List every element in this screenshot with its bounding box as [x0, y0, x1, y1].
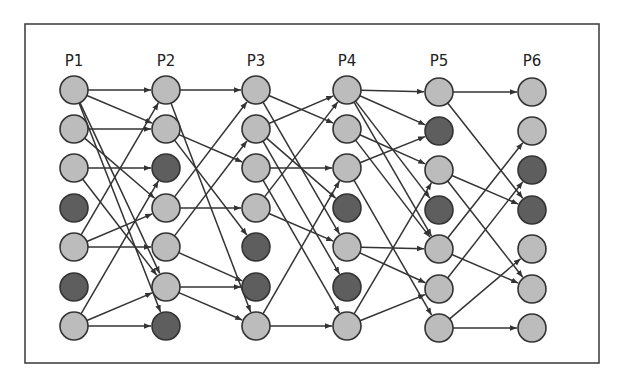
node-p3-7-active [242, 312, 270, 340]
edge-arrow [448, 143, 523, 238]
node-p6-5-active [518, 235, 546, 263]
node-p3-6-inactive [242, 273, 270, 301]
edge-arrow [361, 90, 424, 91]
column-label-p4: P4 [338, 52, 357, 70]
node-p2-6-active [152, 273, 180, 301]
edge-arrow [81, 103, 158, 235]
node-p1-4-inactive [60, 194, 88, 222]
edge-arrow [174, 102, 246, 197]
node-p2-2-active [152, 115, 180, 143]
edge-arrow [450, 259, 521, 319]
node-p3-3-active [242, 154, 270, 182]
node-p3-5-inactive [242, 233, 270, 261]
node-p5-6-active [425, 275, 453, 303]
node-p4-4-inactive [333, 194, 361, 222]
column-labels: P1P2P3P4P5P6 [65, 52, 542, 70]
node-p4-3-active [333, 154, 361, 182]
node-p3-1-active [242, 76, 270, 104]
node-p6-2-active [518, 117, 546, 145]
node-p3-4-active [242, 194, 270, 222]
node-p1-7-active [60, 312, 88, 340]
edges-layer [79, 90, 523, 328]
node-p1-6-inactive [60, 273, 88, 301]
column-label-p2: P2 [157, 52, 176, 70]
edge-arrow [360, 295, 425, 321]
node-p2-4-active [152, 194, 180, 222]
edge-arrow [356, 140, 430, 237]
node-p5-5-active [425, 235, 453, 263]
edge-arrow [360, 253, 426, 283]
edge-arrow [179, 293, 242, 320]
nodes-layer [60, 76, 546, 342]
node-p1-5-active [60, 233, 88, 261]
edge-arrow [265, 102, 338, 197]
node-p4-7-active [333, 312, 361, 340]
node-p6-4-inactive [518, 196, 546, 224]
node-p4-6-inactive [333, 273, 361, 301]
node-p2-7-inactive [152, 312, 180, 340]
edge-arrow [269, 214, 333, 242]
edge-arrow [263, 141, 340, 274]
column-label-p5: P5 [430, 52, 449, 70]
node-p2-1-active [152, 76, 180, 104]
node-p4-5-active [333, 233, 361, 261]
node-p6-7-active [518, 314, 546, 342]
node-p1-3-active [60, 154, 88, 182]
node-p5-2-inactive [425, 117, 453, 145]
node-p6-1-active [518, 78, 546, 106]
network-diagram: P1P2P3P4P5P6 [0, 0, 618, 381]
node-p5-3-active [425, 156, 453, 184]
node-p2-3-inactive [152, 154, 180, 182]
node-p3-2-active [242, 115, 270, 143]
column-label-p6: P6 [523, 52, 542, 70]
edge-arrow [87, 293, 152, 321]
node-p5-1-active [425, 78, 453, 106]
node-p4-1-active [333, 76, 361, 104]
node-p5-7-active [425, 314, 453, 342]
node-p4-2-active [333, 115, 361, 143]
node-p5-4-inactive [425, 196, 453, 224]
node-p1-1-active [60, 76, 88, 104]
column-label-p1: P1 [65, 52, 84, 70]
edge-arrow [87, 95, 152, 123]
edge-arrow [79, 103, 160, 312]
edge-arrow [448, 103, 523, 198]
column-label-p3: P3 [247, 52, 266, 70]
node-p1-2-active [60, 115, 88, 143]
node-p2-5-active [152, 233, 180, 261]
node-p6-6-active [518, 275, 546, 303]
node-p6-3-inactive [518, 156, 546, 184]
